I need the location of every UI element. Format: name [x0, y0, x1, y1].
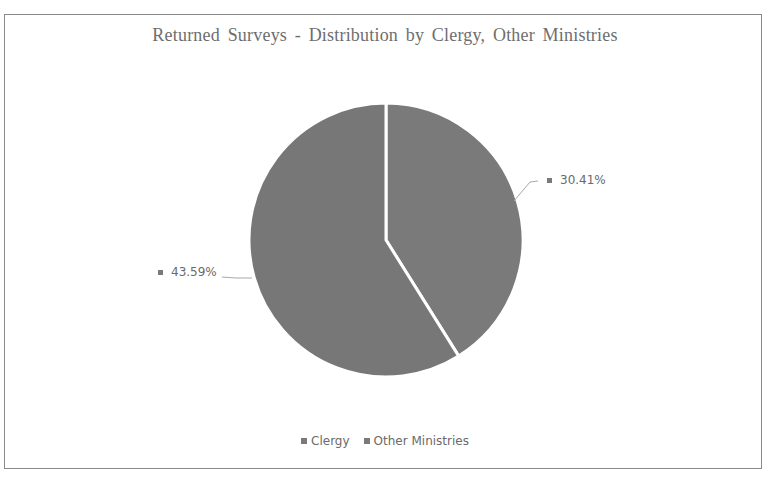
label-marker-icon — [547, 178, 552, 183]
legend-item-other-ministries[interactable]: Other Ministries — [364, 434, 469, 448]
data-label-other-ministries: 43.59% — [158, 265, 217, 279]
data-label-clergy-text: 30.41% — [560, 173, 606, 187]
chart-legend: Clergy Other Ministries — [0, 434, 770, 448]
leader-line-other-ministries — [222, 277, 252, 278]
legend-swatch-icon — [301, 438, 307, 444]
data-label-other-ministries-text: 43.59% — [171, 265, 217, 279]
data-label-clergy: 30.41% — [547, 173, 606, 187]
pie-chart — [0, 0, 770, 477]
legend-label: Clergy — [311, 434, 350, 448]
legend-label: Other Ministries — [374, 434, 469, 448]
legend-item-clergy[interactable]: Clergy — [301, 434, 350, 448]
label-marker-icon — [158, 270, 163, 275]
legend-swatch-icon — [364, 438, 370, 444]
